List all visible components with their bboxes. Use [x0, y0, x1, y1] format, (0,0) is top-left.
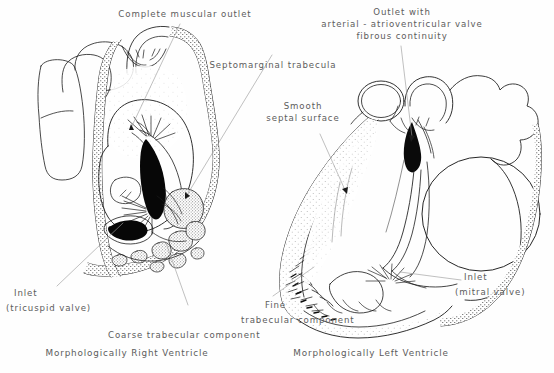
label-complete-muscular-outlet: Complete muscular outlet — [118, 9, 251, 21]
label-outlet-fibrous-continuity-line2: arterial - atrioventricular valve — [321, 19, 482, 31]
anatomical-figure: Complete muscular outlet Septomarginal t… — [0, 0, 554, 373]
label-smooth-septal-surface-line1: Smooth — [284, 101, 323, 113]
label-inlet-mitral-line2: (mitral valve) — [455, 287, 525, 299]
label-inlet-tricuspid-line1: Inlet — [14, 288, 38, 300]
right-ventricle-drawing — [38, 26, 219, 277]
label-outlet-fibrous-continuity-line3: fibrous continuity — [356, 31, 447, 43]
label-outlet-fibrous-continuity-line1: Outlet with — [373, 7, 431, 19]
caption-morphologically-right-ventricle: Morphologically Right Ventricle — [46, 348, 209, 358]
label-fine-trabecular-component-line2: trabecular component — [241, 315, 355, 327]
label-septomarginal-trabecula: Septomarginal trabecula — [210, 60, 337, 72]
label-smooth-septal-surface-line2: septal surface — [266, 113, 339, 125]
label-inlet-tricuspid-line2: (tricuspid valve) — [6, 303, 91, 315]
label-fine-trabecular-component-line1: Fine — [265, 300, 286, 312]
caption-morphologically-left-ventricle: Morphologically Left Ventricle — [293, 348, 448, 358]
label-inlet-mitral-line1: Inlet — [464, 272, 488, 284]
label-coarse-trabecular-component: Coarse trabecular component — [108, 330, 260, 342]
